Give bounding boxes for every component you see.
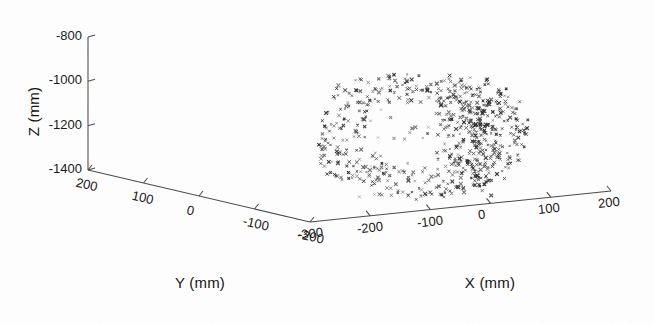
data-point [430, 91, 432, 93]
data-point [352, 165, 354, 167]
tick-label: -1200 [30, 117, 82, 132]
data-point [440, 97, 442, 99]
tick-label: -800 [30, 28, 82, 43]
tick-label: -1400 [30, 161, 82, 176]
tick-label: 100 [537, 200, 560, 217]
data-point [459, 133, 461, 135]
tick-label: -1000 [30, 72, 82, 87]
data-point [406, 74, 408, 76]
data-point [396, 82, 398, 84]
data-point [418, 187, 420, 189]
data-point [507, 119, 509, 121]
data-point [330, 123, 332, 125]
data-point [442, 180, 444, 182]
data-point [462, 115, 464, 117]
data-point [364, 136, 366, 138]
data-point [422, 137, 424, 139]
data-point [487, 144, 489, 146]
tick-label: 0 [477, 207, 486, 223]
tick-label: -300 [296, 225, 323, 243]
y-axis-title: Y (mm) [120, 274, 280, 291]
data-point [426, 132, 428, 134]
x-axis-title: X (mm) [410, 274, 570, 291]
figure-3d-scatter-plot: Z (mm) Y (mm) X (mm) -800-1000-1200-1400… [0, 0, 654, 324]
tick-label: 200 [597, 194, 620, 211]
data-point [444, 192, 446, 194]
data-point [407, 162, 409, 164]
data-point [452, 134, 454, 136]
tick-label: -100 [417, 212, 444, 230]
data-point [470, 177, 472, 179]
tick-label: -200 [356, 218, 383, 236]
